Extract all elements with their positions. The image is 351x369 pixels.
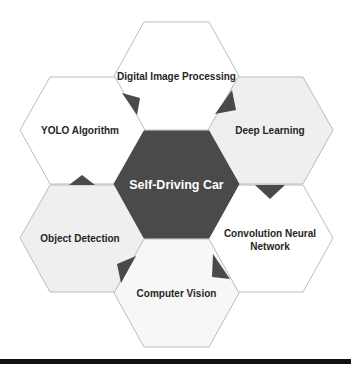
hex-label: Deep Learning — [235, 125, 304, 136]
center-label: Self-Driving Car — [129, 178, 224, 192]
hex-label-line2: Network — [250, 241, 290, 252]
hex-label-line1: Convolution Neural — [224, 228, 316, 239]
hexagon-diagram: Digital Image Processing YOLO Algorithm … — [0, 0, 351, 369]
hex-label: Digital Image Processing — [117, 71, 236, 82]
bottom-rule — [0, 359, 351, 364]
hex-label: YOLO Algorithm — [41, 125, 119, 136]
hex-label: Object Detection — [40, 233, 119, 244]
hex-label: Computer Vision — [137, 288, 217, 299]
